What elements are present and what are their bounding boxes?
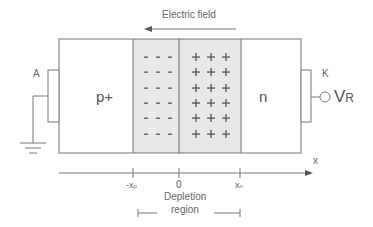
negative-charge-icon [144,103,148,104]
negative-charge-icon [156,118,160,119]
cathode-label: K [322,68,329,79]
positive-charge-icon [195,114,196,122]
n-region-label: n [259,88,267,105]
negative-charge-icon [156,72,160,73]
negative-charge-icon [168,72,172,73]
positive-charge-icon [195,68,196,76]
x-axis-label: x [313,155,318,166]
positive-charge-icon [195,130,196,138]
anode-contact [48,70,59,122]
negative-charge-icon [144,134,148,135]
depletion-label-line2: region [171,204,199,215]
positive-charge-icon [210,99,211,107]
positive-charge-icon [225,114,226,122]
negative-charge-icon [156,103,160,104]
positive-charge-icon [225,130,226,138]
electric-field-arrow [144,26,236,32]
negative-charge-icon [144,118,148,119]
positive-charge-icon [210,130,211,138]
positive-charge-icon [210,114,211,122]
voltage-label: VR [334,87,354,107]
x-axis [59,168,313,178]
ground-icon [20,96,48,153]
electric-field-label: Electric field [162,9,216,20]
negative-charge-icon [144,72,148,73]
tick-label-xn: xn [235,180,243,190]
tick-label-zero: 0 [176,179,182,190]
negative-charge-icon [156,88,160,89]
positive-charge-icon [210,68,211,76]
positive-charge-icon [225,53,226,61]
positive-charge-icon [225,99,226,107]
tick-label-neg-xp: -xp [126,180,137,190]
negative-charge-icon [168,88,172,89]
positive-charge-icon [225,68,226,76]
positive-charge-icon [210,84,211,92]
positive-charge-icon [195,84,196,92]
negative-charge-icon [168,134,172,135]
positive-charge-icon [195,99,196,107]
anode-label: A [33,68,40,79]
positive-charge-icon [210,53,211,61]
terminal-circle-icon [320,92,330,102]
negative-charge-icon [168,103,172,104]
positive-charge-icon [195,53,196,61]
negative-charge-icon [168,57,172,58]
voltage-symbol: V [334,87,345,106]
negative-charge-icon [168,118,172,119]
depletion-region [133,39,241,153]
p-region-label: p+ [96,88,113,105]
depletion-label-line1: Depletion [164,191,206,202]
positive-charge-icon [225,84,226,92]
negative-charge-icon [144,57,148,58]
negative-charge-icon [144,88,148,89]
cathode-contact [301,70,311,122]
negative-charge-icon [156,134,160,135]
voltage-subscript: R [345,91,354,105]
negative-charge-icon [156,57,160,58]
